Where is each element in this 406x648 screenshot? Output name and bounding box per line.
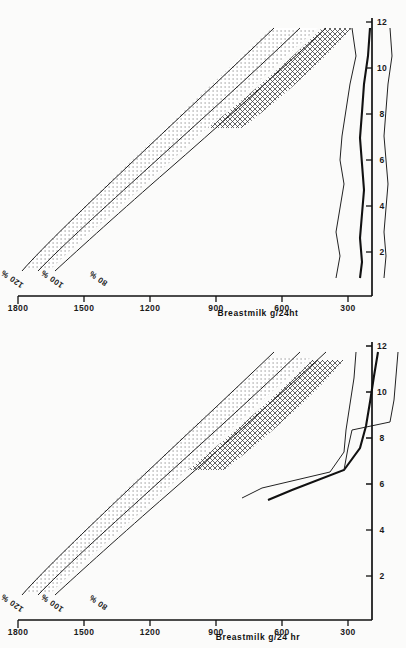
curve-observed-upper [336, 28, 356, 278]
band-label-120: 120 % [0, 592, 25, 614]
stipple-band [24, 28, 318, 268]
x-tick-8: 8 [379, 109, 384, 119]
x-tick-10: 10 [377, 387, 387, 397]
y-tick-1200: 1200 [140, 627, 161, 637]
y-tick-1500: 1500 [74, 303, 95, 313]
y-tick-1800: 1800 [8, 303, 29, 313]
y-tick-300: 300 [340, 627, 355, 637]
band-label-80: 80 % [87, 269, 109, 288]
y-axis-title: Breastmilk g/24ht [217, 308, 298, 318]
band-label-100: 100 % [39, 268, 65, 290]
x-tick-12: 12 [377, 17, 387, 27]
x-tick-2: 2 [379, 247, 384, 257]
x-tick-4: 4 [379, 201, 384, 211]
figure-page: 120 % 100 % 80 % [0, 0, 406, 648]
band-label-120: 120 % [0, 268, 25, 290]
y-tick-1500: 1500 [74, 627, 95, 637]
curve-observed-mean [360, 28, 370, 278]
y-tick-labels: 1800 1500 1200 900 600 300 [8, 627, 356, 637]
x-tick-labels: 2 4 6 8 10 12 [377, 341, 387, 581]
curve-observed-lower [344, 352, 398, 470]
band-label-100: 100 % [39, 592, 65, 614]
x-tick-6: 6 [379, 479, 384, 489]
x-tick-12: 12 [377, 341, 387, 351]
x-tick-4: 4 [379, 525, 384, 535]
x-tick-labels: 2 4 6 8 10 12 [377, 17, 387, 257]
y-axis-title: Breastmilk g/24 hr [216, 632, 301, 642]
x-tick-2: 2 [379, 571, 384, 581]
x-tick-10: 10 [377, 63, 387, 73]
y-tick-300: 300 [340, 303, 355, 313]
chart-panel-bottom: 120 % 100 % 80 % [0, 324, 406, 648]
x-tick-8: 8 [379, 433, 384, 443]
chart-panel-top: 120 % 100 % 80 % [0, 0, 406, 324]
y-tick-labels: 1800 1500 1200 900 600 300 [8, 303, 356, 313]
plot-svg-top: 120 % 100 % 80 % [0, 0, 406, 324]
y-tick-group [18, 296, 348, 304]
y-tick-1200: 1200 [140, 303, 161, 313]
x-tick-group [366, 346, 372, 576]
y-tick-group [18, 620, 348, 628]
band-label-80: 80 % [87, 593, 109, 612]
plot-svg-bottom: 120 % 100 % 80 % [0, 324, 406, 648]
x-tick-6: 6 [379, 155, 384, 165]
y-tick-1800: 1800 [8, 627, 29, 637]
